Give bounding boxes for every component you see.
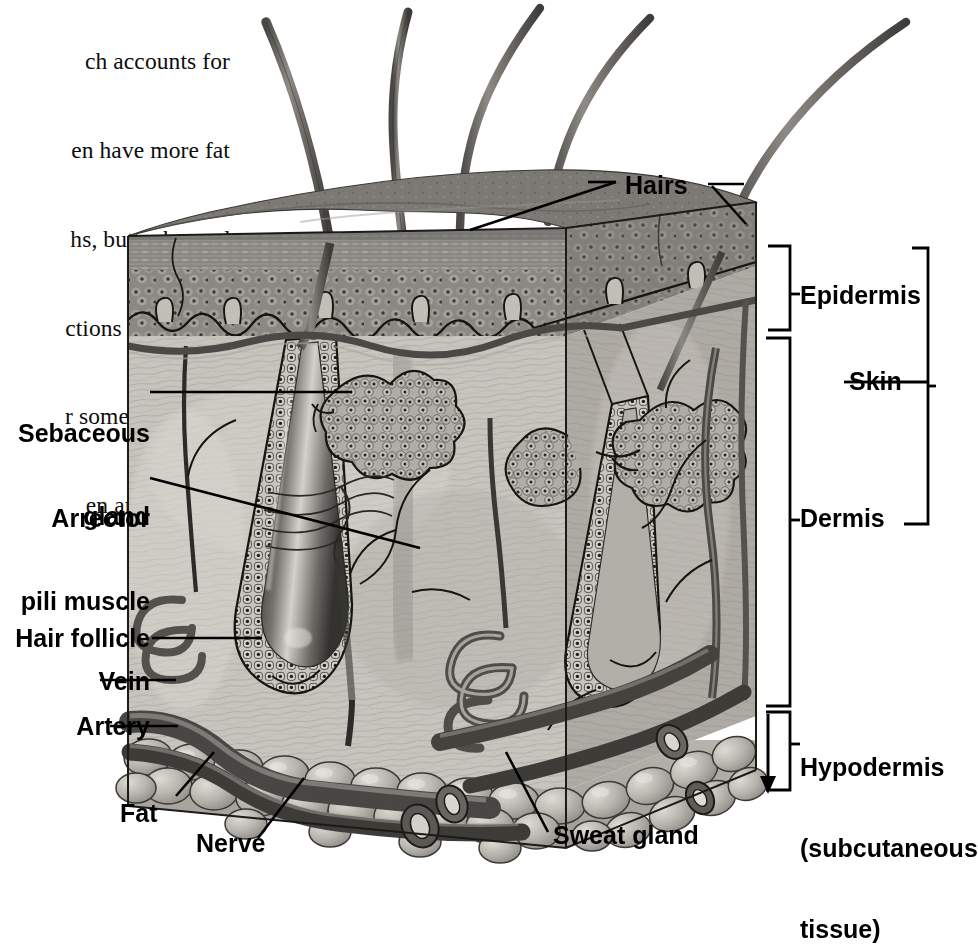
label-dermis: Dermis bbox=[800, 505, 885, 533]
label-hypodermis-line1: Hypodermis bbox=[800, 754, 978, 781]
label-hairs: Hairs bbox=[625, 172, 688, 200]
label-sebaceous-line1: Sebaceous bbox=[8, 420, 150, 448]
label-skin: Skin bbox=[849, 368, 902, 396]
label-arrector-pili-muscle: Arrector pili muscle bbox=[8, 450, 150, 643]
epidermis-front bbox=[120, 220, 580, 350]
skin-block bbox=[116, 170, 772, 863]
label-sweat-gland: Sweat gland bbox=[553, 822, 699, 850]
label-vein: Vein bbox=[0, 668, 150, 696]
label-nerve: Nerve bbox=[196, 830, 266, 858]
bracket-epidermis bbox=[768, 246, 790, 330]
label-hypodermis: Hypodermis (subcutaneous tissue) bbox=[800, 700, 978, 947]
label-hair-follicle: Hair follicle bbox=[0, 625, 150, 653]
label-hypodermis-line2: (subcutaneous bbox=[800, 835, 978, 862]
label-hypodermis-line3: tissue) bbox=[800, 916, 978, 943]
label-arrector-line1: Arrector bbox=[8, 505, 150, 533]
bracket-dermis bbox=[766, 338, 790, 706]
label-fat: Fat bbox=[120, 800, 158, 828]
label-epidermis: Epidermis bbox=[800, 282, 921, 310]
label-artery: Artery bbox=[0, 713, 150, 741]
label-arrector-line2: pili muscle bbox=[8, 588, 150, 616]
